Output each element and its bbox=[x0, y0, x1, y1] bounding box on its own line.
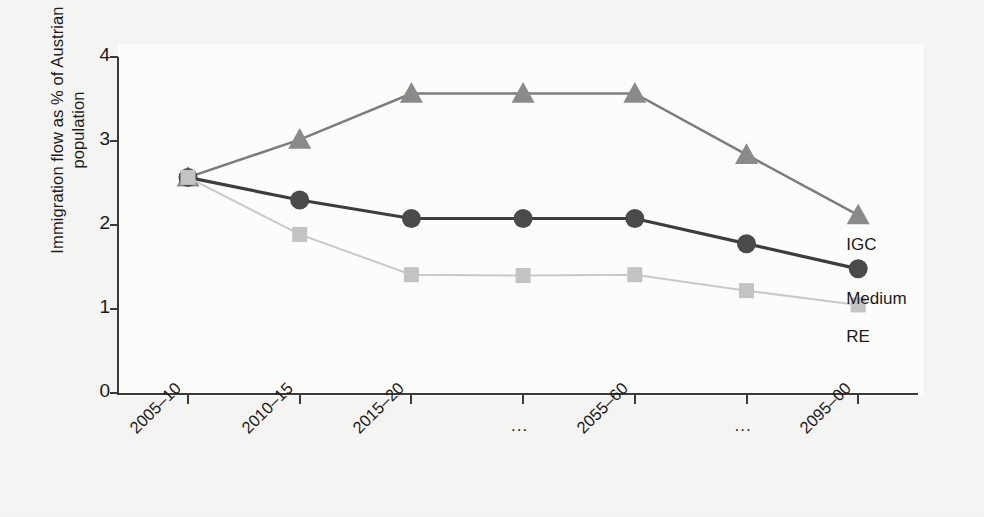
series-re bbox=[181, 170, 866, 313]
data-point-marker bbox=[735, 143, 758, 164]
data-point-marker bbox=[292, 227, 307, 242]
data-point-marker bbox=[290, 191, 309, 210]
data-point-marker bbox=[849, 259, 868, 278]
data-point-marker bbox=[847, 204, 870, 225]
data-point-marker bbox=[516, 268, 531, 283]
data-point-marker bbox=[402, 209, 421, 228]
chart-figure: Immigration flow as % of Austrian popula… bbox=[0, 0, 984, 517]
data-point-marker bbox=[181, 170, 196, 185]
series-label-re: RE bbox=[846, 327, 870, 347]
data-point-marker bbox=[739, 283, 754, 298]
series-label-igc: IGC bbox=[846, 235, 876, 255]
chart-series-canvas bbox=[0, 0, 984, 517]
series-medium bbox=[179, 168, 868, 278]
series-label-medium: Medium bbox=[846, 289, 906, 309]
series-layer bbox=[177, 82, 870, 312]
data-point-marker bbox=[737, 234, 756, 253]
data-point-marker bbox=[514, 209, 533, 228]
data-point-marker bbox=[404, 267, 419, 282]
data-point-marker bbox=[627, 267, 642, 282]
series-igc bbox=[177, 82, 870, 224]
data-point-marker bbox=[288, 128, 311, 149]
data-point-marker bbox=[625, 209, 644, 228]
